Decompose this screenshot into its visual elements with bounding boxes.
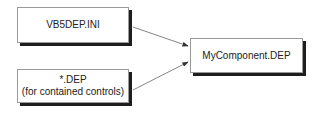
node-contained-dep: *.DEP (for contained controls) [17, 69, 129, 103]
node-label: VB5DEP.INI [46, 19, 100, 31]
node-sublabel: (for contained controls) [22, 86, 124, 98]
node-label: MyComponent.DEP [202, 50, 290, 62]
node-mycomponent-dep: MyComponent.DEP [190, 38, 303, 73]
arrow-vb5dep-to-target [133, 27, 188, 46]
arrow-contained-to-target [133, 62, 188, 90]
node-label: *.DEP [59, 74, 86, 86]
node-vb5dep-ini: VB5DEP.INI [17, 7, 129, 43]
